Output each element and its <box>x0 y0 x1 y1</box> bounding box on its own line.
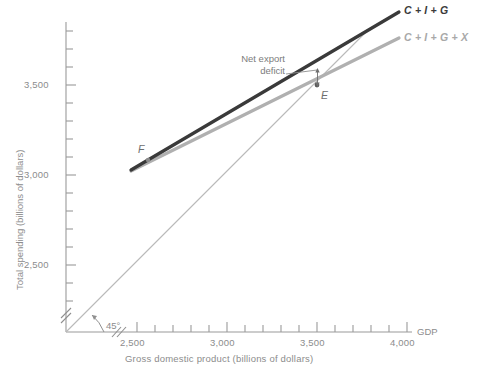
x-axis-title: Gross domestic product (billions of doll… <box>125 353 313 364</box>
x-tick-label-2500: 2,500 <box>120 337 145 348</box>
net-export-deficit-line2: deficit <box>205 65 285 77</box>
net-export-deficit-line1: Net export <box>205 53 285 65</box>
point-label-e: E <box>321 89 328 101</box>
series-line-c-i-g <box>131 12 399 170</box>
y-tick-label-3500: 3,500 <box>24 79 49 90</box>
series-label-c-i-g: C + I + G <box>404 4 448 16</box>
angle-label-45-degrees: 45° <box>106 320 120 331</box>
series-label-c-i-g-x: C + I + G + X <box>404 31 468 43</box>
x-axis-end-label-gdp: GDP <box>417 326 438 337</box>
y-tick-label-2500: 2,500 <box>24 259 49 270</box>
y-axis-title: Total spending (billions of dollars) <box>14 150 25 290</box>
x-axis-ticks <box>137 322 407 332</box>
net-export-deficit-annotation: Net export deficit <box>205 53 285 77</box>
angle-indicator-arrow <box>92 315 104 332</box>
y-axis-ticks <box>66 31 76 301</box>
x-tick-label-3000: 3,000 <box>210 337 235 348</box>
x-tick-label-3500: 3,500 <box>300 337 325 348</box>
point-f-marker <box>146 158 150 162</box>
point-label-f: F <box>138 143 145 155</box>
x-tick-label-4000: 4,000 <box>390 337 415 348</box>
y-tick-label-3000: 3,000 <box>24 169 49 180</box>
chart-figure: 3,500 3,000 2,500 2,500 3,000 3,500 4,00… <box>0 0 486 371</box>
